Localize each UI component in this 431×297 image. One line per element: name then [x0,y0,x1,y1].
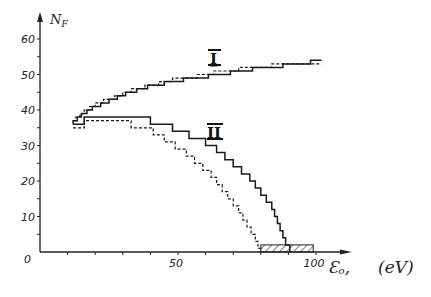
y-tick-label: 10 [21,211,35,224]
series-ii-solid [73,117,290,252]
y-axis-label: NF [49,12,68,29]
ticks: 102030405060050100 [21,33,325,270]
hatched-threshold-region [261,245,313,252]
y-axis-arrow-icon [37,12,43,22]
x-tick-label: 100 [304,257,325,270]
hatched-region [261,245,313,252]
y-tick-label: 50 [21,69,35,82]
series-i-dashed [73,64,321,121]
x-axis-unit: (eV) [378,257,414,277]
y-tick-label: 30 [21,140,35,153]
x-axis-arrow-icon [340,250,352,255]
y-tick-label: 60 [21,33,35,46]
origin-label: 0 [24,253,31,266]
y-tick-label: 20 [21,175,35,188]
series-ii-dashed [73,121,261,252]
x-axis-label: Ɛo, [328,257,350,277]
axes [37,12,352,255]
y-tick-label: 40 [21,104,35,117]
x-tick-label: 50 [169,257,183,270]
chart: 102030405060050100 NF Ɛo, (eV) I II [0,0,431,297]
series-group [73,60,321,252]
series-i-solid [73,60,321,124]
